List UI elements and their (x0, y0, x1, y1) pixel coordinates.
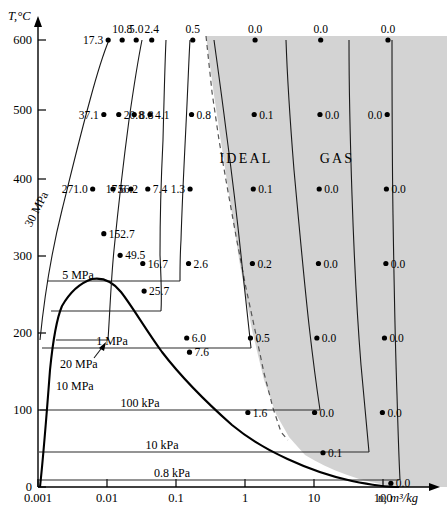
data-point-marker (128, 186, 133, 191)
data-point-label: 0.2 (257, 258, 272, 270)
data-point-marker (385, 37, 390, 42)
data-point-marker (388, 481, 393, 486)
data-point-marker (250, 261, 255, 266)
data-point-label: 0.1 (328, 447, 343, 459)
data-point-label: 25.7 (149, 285, 169, 297)
data-point-marker (384, 186, 389, 191)
y-tick-500: 500 (13, 103, 32, 117)
data-point-label: 17.3 (83, 34, 103, 46)
data-point-marker (149, 37, 154, 42)
data-point-marker (120, 37, 125, 42)
isobar-label-5MPa: 5 MPa (62, 268, 94, 282)
x-tick-0.01: 0.01 (96, 491, 118, 505)
y-axis-tick-labels: 0 100 200 300 400 500 600 (13, 33, 32, 494)
y-tick-400: 400 (13, 172, 32, 186)
data-point-label: 17.6 (106, 183, 126, 195)
x-tick-0.001: 0.001 (24, 491, 52, 505)
data-point-label: 0.0 (368, 109, 383, 121)
data-point-marker (316, 261, 321, 266)
data-point-label: 0.0 (314, 23, 329, 35)
data-point-marker (383, 261, 388, 266)
data-point-marker (134, 37, 139, 42)
data-point-marker (320, 450, 325, 455)
data-point-marker (118, 253, 123, 258)
data-point-label: 2.4 (145, 23, 160, 35)
isobar-label-20MPa: 20 MPa (60, 357, 98, 371)
y-axis-arrow (34, 16, 42, 27)
isobar-label-100kPa: 100 kPa (121, 396, 161, 410)
y-tick-marks (38, 40, 46, 487)
data-point-marker (312, 410, 317, 415)
data-point-marker (317, 186, 322, 191)
data-point-label: 4.1 (155, 109, 170, 121)
data-point-marker (147, 112, 152, 117)
data-point-label: 1.6 (253, 407, 268, 419)
x-axis-title: υ, m³/kg (378, 491, 418, 505)
y-axis-title: T,°C (8, 9, 31, 23)
data-point-label: 2.6 (194, 258, 209, 270)
data-point-label: 6.0 (192, 332, 207, 344)
data-point-label: 152.7 (109, 228, 135, 240)
data-point-marker (314, 335, 319, 340)
isobar-label-0.8kPa: 0.8 kPa (154, 466, 191, 480)
data-point-marker (380, 410, 385, 415)
data-point-label: 0.0 (391, 258, 406, 270)
data-point-marker (90, 186, 95, 191)
data-point-label: 0.1 (258, 183, 273, 195)
data-point-label: 0.0 (324, 183, 339, 195)
data-point-label: 16.7 (148, 258, 168, 270)
region-label-ideal: IDEAL (220, 151, 273, 166)
data-point-marker (132, 112, 137, 117)
data-point-marker (318, 37, 323, 42)
data-point-marker (189, 112, 194, 117)
isobar-label-10MPa: 10 MPa (56, 379, 94, 393)
data-point-marker (184, 335, 189, 340)
data-point-label: 0.0 (323, 258, 338, 270)
data-point-marker (382, 335, 387, 340)
x-axis-tick-labels: 0.001 0.01 0.1 1 10 100 (24, 491, 392, 505)
y-tick-600: 600 (13, 33, 32, 47)
y-tick-100: 100 (13, 403, 32, 417)
x-tick-10: 10 (308, 491, 321, 505)
data-point-marker (106, 37, 111, 42)
data-point-marker (252, 112, 257, 117)
data-point-marker (317, 112, 322, 117)
data-point-marker (248, 335, 253, 340)
data-point-label: 0.5 (255, 332, 270, 344)
data-point-marker (186, 261, 191, 266)
data-point-marker (190, 37, 195, 42)
data-point-marker (187, 186, 192, 191)
data-point-marker (245, 410, 250, 415)
data-point-label: 49.5 (125, 249, 145, 261)
isobar-10MPa (160, 40, 166, 311)
y-tick-200: 200 (13, 326, 32, 340)
data-point-label: 37.1 (79, 109, 99, 121)
data-point-label: 0.0 (325, 109, 340, 121)
data-point-marker (145, 186, 150, 191)
x-tick-0.1: 0.1 (168, 491, 184, 505)
data-point-label: 7.6 (195, 346, 210, 358)
region-label-gas: GAS (320, 151, 355, 166)
data-point-label: 5.0 (129, 23, 144, 35)
data-point-label: 0.0 (387, 407, 402, 419)
data-point-label: 0.0 (396, 477, 411, 489)
chart-svg: 0 100 200 300 400 500 600 0.001 0.01 0.1… (0, 0, 447, 515)
data-point-label: 0.5 (186, 23, 201, 35)
data-point-marker (252, 37, 257, 42)
data-point-label: 0.0 (320, 407, 335, 419)
data-point-label: 0.0 (322, 332, 337, 344)
data-point-label: 0.8 (197, 109, 212, 121)
data-point-label: 0.0 (248, 23, 263, 35)
data-point-marker (101, 231, 106, 236)
data-point-label: 1.3 (171, 183, 186, 195)
data-point-marker (187, 350, 192, 355)
isobar-label-10kPa: 10 kPa (146, 438, 180, 452)
data-point-label: 0.0 (389, 332, 404, 344)
data-point-marker (385, 112, 390, 117)
isobar-5MPa (180, 40, 190, 281)
x-tick-1: 1 (242, 491, 248, 505)
data-point-label: 0.0 (391, 183, 406, 195)
data-point-label: 0.1 (259, 109, 274, 121)
data-point-label: 271.0 (62, 183, 88, 195)
y-tick-300: 300 (13, 249, 32, 263)
